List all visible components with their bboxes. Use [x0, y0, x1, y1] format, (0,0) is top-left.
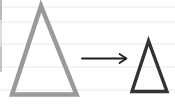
drawing-canvas [0, 0, 175, 106]
small-triangle [132, 41, 167, 92]
large-triangle [12, 6, 77, 95]
diagram-svg [0, 0, 175, 106]
